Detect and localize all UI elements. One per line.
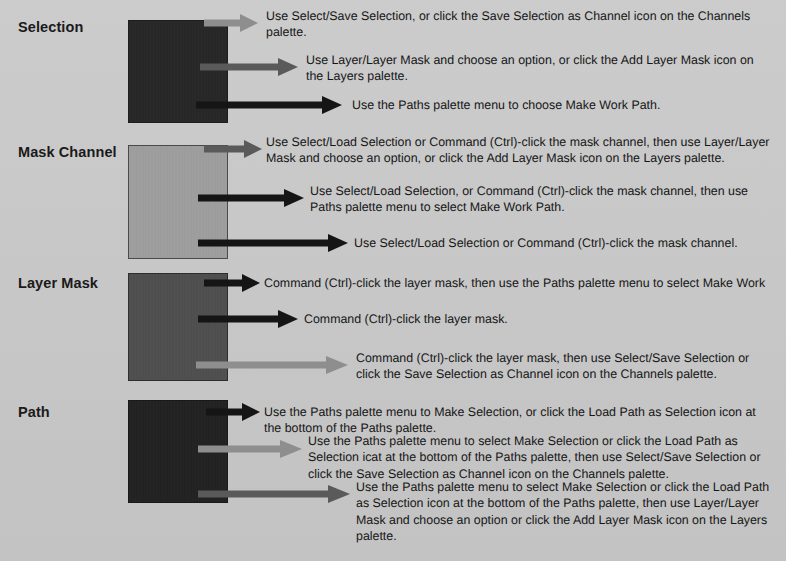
thumbnail-swatch-selection: [128, 20, 228, 123]
callout-text-selection-1: Use Select/Save Selection, or click the …: [266, 8, 772, 41]
arrow-head: [244, 140, 262, 158]
callout-text-layer-mask-3: Command (Ctrl)-click the layer mask, the…: [356, 350, 774, 383]
callout-text-layer-mask-2: Command (Ctrl)-click the layer mask.: [304, 311, 770, 327]
category-label-path: Path: [18, 404, 50, 420]
thumbnail-swatch-path: [128, 400, 228, 503]
callout-text-selection-3: Use the Paths palette menu to choose Mak…: [352, 97, 772, 113]
callout-text-path-3: Use the Paths palette menu to select Mak…: [356, 479, 774, 544]
arrow-head: [278, 58, 298, 76]
swatch-texture: [129, 21, 227, 122]
callout-text-mask-channel-1: Use Select/Load Selection or Command (Ct…: [266, 134, 778, 167]
arrow-head: [242, 403, 260, 421]
arrow-head: [328, 234, 348, 252]
callout-text-path-2: Use the Paths palette menu to select Mak…: [308, 433, 772, 482]
category-label-selection: Selection: [18, 19, 83, 35]
swatch-texture: [129, 274, 227, 380]
thumbnail-swatch-mask-channel: [128, 145, 228, 259]
arrow-head: [242, 274, 260, 292]
arrow-head: [322, 96, 342, 114]
callout-text-selection-2: Use Layer/Layer Mask and choose an optio…: [306, 52, 772, 85]
arrow-head: [284, 189, 304, 207]
callout-text-mask-channel-3: Use Select/Load Selection or Command (Ct…: [354, 235, 774, 251]
swatch-texture: [129, 146, 227, 258]
callout-text-path-1: Use the Paths palette menu to Make Selec…: [264, 404, 774, 437]
arrow-head: [280, 440, 302, 458]
arrow-head: [240, 14, 258, 32]
category-label-layer-mask: Layer Mask: [18, 275, 98, 291]
callout-text-layer-mask-1: Command (Ctrl)-click the layer mask, the…: [264, 275, 774, 291]
arrow-head: [326, 356, 348, 374]
figure-page: Selection Use Select/Save Selection, or …: [0, 0, 786, 561]
thumbnail-swatch-layer-mask: [128, 273, 228, 381]
swatch-texture: [129, 401, 227, 502]
callout-text-mask-channel-2: Use Select/Load Selection, or Command (C…: [310, 183, 772, 216]
category-label-mask-channel: Mask Channel: [18, 144, 117, 160]
arrow-head: [328, 485, 350, 503]
arrow-head: [278, 310, 298, 328]
